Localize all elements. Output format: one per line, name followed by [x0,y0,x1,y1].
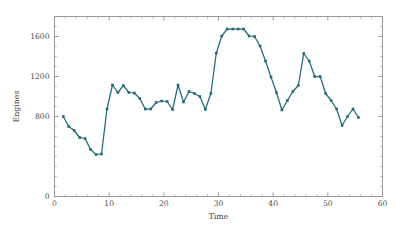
data-point [330,99,333,102]
y-tick-label: 1600 [30,32,49,41]
data-point [144,108,147,111]
data-point [319,75,322,78]
x-axis-minor-ticks [65,17,371,197]
y-tick-label: 800 [35,112,50,121]
data-point [73,129,76,132]
y-axis-tick-labels: 080012001600 [30,32,49,201]
data-point [149,108,152,111]
data-point [242,28,245,31]
data-point [160,100,163,103]
data-point [286,99,289,102]
data-point [100,153,103,156]
x-tick-label: 10 [104,199,114,208]
data-point [204,108,207,111]
data-point [335,108,338,111]
data-point [210,92,213,95]
data-point [78,136,81,139]
data-point [182,101,185,104]
data-point [199,95,202,98]
data-point [122,84,125,87]
data-point [220,35,223,38]
data-point [346,115,349,118]
data-point [259,45,262,48]
data-point [138,97,141,100]
data-point [133,92,136,95]
data-point [341,124,344,127]
chart-figure: 0102030405060 080012001600 Time Engines [0,0,396,237]
data-point [106,108,109,111]
data-point [188,90,191,93]
data-point [166,100,169,103]
data-point [352,108,355,111]
x-tick-label: 50 [323,199,333,208]
data-point [128,91,131,94]
data-point [193,92,196,95]
data-point [226,28,229,31]
y-tick-label: 0 [45,192,50,201]
data-point [84,137,87,140]
x-tick-label: 60 [378,199,388,208]
data-point [253,35,256,38]
x-tick-label: 30 [214,199,224,208]
data-point [297,84,300,87]
data-point [231,28,234,31]
data-point [313,75,316,78]
data-point [155,101,158,104]
data-point [248,35,251,38]
y-axis-label: Engines [12,91,21,123]
line-chart-canvas: 0102030405060 080012001600 Time Engines [0,0,396,237]
y-axis-minor-ticks [55,17,383,187]
x-tick-label: 20 [159,199,169,208]
data-point [177,84,180,87]
x-tick-label: 0 [52,199,57,208]
data-point [302,52,305,55]
x-axis-major-ticks [55,17,383,197]
data-point [67,125,70,128]
y-axis-major-ticks [55,37,383,197]
data-point [292,90,295,93]
x-axis-tick-labels: 0102030405060 [52,199,387,208]
data-point [281,109,284,112]
data-point [324,92,327,95]
data-point [237,28,240,31]
data-point [215,52,218,55]
data-point [270,76,273,79]
data-point [171,108,174,111]
x-axis-label: Time [209,212,229,221]
data-point [89,148,92,151]
data-point [62,115,65,118]
series-line-engines [63,29,358,155]
data-point [275,91,278,94]
x-tick-label: 40 [268,199,278,208]
y-tick-label: 1200 [30,72,49,81]
data-point [308,60,311,63]
plot-frame [55,17,383,197]
data-point [357,116,360,119]
data-point [95,153,98,156]
data-point [111,84,114,87]
data-point [117,91,120,94]
data-point [264,60,267,63]
